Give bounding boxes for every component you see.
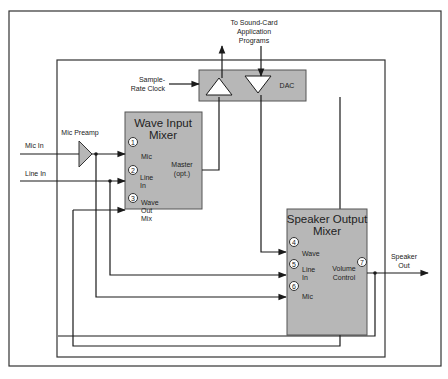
mic-preamp-label: Mic Preamp — [61, 129, 98, 137]
svg-text:Wave: Wave — [141, 199, 159, 206]
svg-text:To Sound-Card: To Sound-Card — [230, 19, 277, 26]
svg-text:6: 6 — [292, 283, 296, 290]
svg-text:3: 3 — [131, 195, 135, 202]
to-application-label: To Sound-Card Application Programs — [230, 19, 277, 45]
outer-frame — [9, 11, 441, 366]
svg-text:4: 4 — [292, 239, 296, 246]
svg-text:Out: Out — [141, 207, 152, 214]
svg-text:Line: Line — [302, 266, 315, 273]
sample-rate-clock-label: Sample- Rate Clock — [131, 76, 166, 92]
svg-text:Master: Master — [171, 161, 193, 168]
svg-text:Control: Control — [333, 274, 356, 281]
svg-text:Out: Out — [398, 262, 409, 269]
svg-text:Wave: Wave — [302, 250, 320, 257]
svg-text:Speaker Output: Speaker Output — [287, 213, 368, 225]
svg-text:Mix: Mix — [141, 215, 152, 222]
sound-card-block-diagram: To Sound-Card Application Programs DAC S… — [0, 0, 448, 379]
master-label: Master (opt.) — [171, 161, 193, 178]
line-in-label: Line In — [25, 170, 46, 177]
svg-text:Mic: Mic — [302, 293, 313, 300]
svg-text:Programs: Programs — [239, 37, 270, 45]
svg-text:1: 1 — [131, 139, 135, 146]
svg-text:Speaker: Speaker — [391, 253, 418, 261]
svg-text:Wave Input: Wave Input — [134, 117, 193, 129]
svg-text:Application: Application — [237, 28, 271, 36]
dac-label: DAC — [280, 82, 295, 89]
svg-text:Rate Clock: Rate Clock — [131, 85, 166, 92]
svg-text:5: 5 — [292, 261, 296, 268]
svg-text:(opt.): (opt.) — [174, 170, 190, 178]
svg-text:Mixer: Mixer — [149, 129, 177, 141]
speaker-out-label: Speaker Out — [391, 253, 418, 269]
mic-in-label: Mic In — [25, 142, 44, 149]
svg-text:In: In — [302, 274, 308, 281]
mic-preamp-triangle-icon — [79, 141, 92, 167]
svg-text:Mixer: Mixer — [313, 225, 341, 237]
svg-text:2: 2 — [131, 167, 135, 174]
svg-text:In: In — [140, 182, 146, 189]
svg-text:Volume: Volume — [332, 265, 355, 272]
svg-text:Sample-: Sample- — [139, 76, 166, 84]
svg-text:7: 7 — [360, 259, 364, 266]
svg-text:Line: Line — [140, 174, 153, 181]
svg-text:Mic: Mic — [141, 153, 152, 160]
